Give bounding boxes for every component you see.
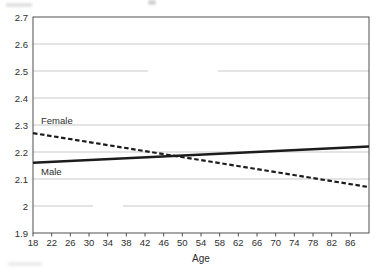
x-tick-label: 38 xyxy=(121,237,132,248)
x-tick-label: 58 xyxy=(214,237,225,248)
y-tick-label: 2.2 xyxy=(15,147,28,158)
x-tick-label: 34 xyxy=(102,237,113,248)
male-series-label: Male xyxy=(41,166,62,177)
scan-fade-streaks xyxy=(93,69,218,209)
x-axis-title: Age xyxy=(192,253,210,264)
axes: 2.72.62.52.42.32.22.121.9182226303438424… xyxy=(15,12,369,249)
y-tick-label: 2 xyxy=(23,201,28,212)
line-chart: 2.72.62.52.42.32.22.121.9182226303438424… xyxy=(0,0,379,274)
y-tick-label: 2.3 xyxy=(15,120,28,131)
x-tick-label: 62 xyxy=(233,237,244,248)
y-tick-label: 2.4 xyxy=(15,93,28,104)
female-series-label: Female xyxy=(41,115,73,126)
x-tick-label: 86 xyxy=(345,237,356,248)
x-tick-label: 70 xyxy=(270,237,281,248)
y-tick-label: 2.1 xyxy=(15,174,28,185)
x-tick-label: 26 xyxy=(65,237,76,248)
gridlines xyxy=(33,44,369,206)
figure: 2.72.62.52.42.32.22.121.9182226303438424… xyxy=(0,0,379,274)
y-tick-label: 1.9 xyxy=(15,228,28,239)
x-tick-label: 78 xyxy=(308,237,319,248)
x-tick-label: 66 xyxy=(252,237,263,248)
y-tick-label: 2.6 xyxy=(15,39,28,50)
x-tick-label: 30 xyxy=(84,237,95,248)
y-tick-label: 2.5 xyxy=(15,66,28,77)
x-tick-label: 50 xyxy=(177,237,188,248)
male-line xyxy=(33,147,369,163)
y-tick-label: 2.7 xyxy=(15,12,28,23)
x-tick-label: 54 xyxy=(196,237,207,248)
scan-fade xyxy=(93,205,123,209)
x-tick-label: 18 xyxy=(28,237,39,248)
x-tick-label: 46 xyxy=(158,237,169,248)
x-tick-label: 42 xyxy=(140,237,151,248)
scan-fade xyxy=(148,69,218,73)
x-tick-label: 82 xyxy=(326,237,337,248)
x-tick-label: 22 xyxy=(46,237,57,248)
x-tick-label: 74 xyxy=(289,237,300,248)
